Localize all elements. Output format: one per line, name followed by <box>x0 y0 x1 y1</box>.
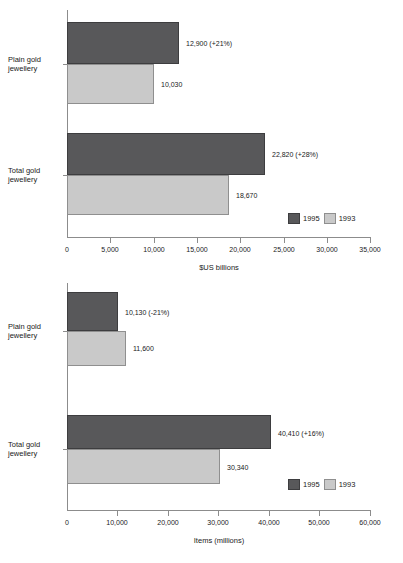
items-chart-bar-label-total-1995: 40,410 (+16%) <box>278 430 324 437</box>
items-chart-bar-total-1993 <box>67 449 220 484</box>
value-chart-tick <box>67 233 68 238</box>
items-chart-tick <box>319 511 320 516</box>
items-chart-bar-label-total-1993: 30,340 <box>227 464 248 471</box>
legend-swatch-1993-icon <box>324 479 336 490</box>
value-chart-legend-item-1995: 1995 <box>288 213 320 224</box>
value-chart-legend: 1995 1993 <box>288 213 355 224</box>
items-chart-tick <box>269 511 270 516</box>
items-chart-tick <box>117 511 118 516</box>
items-chart-plot-area: 0 10,000 20,000 30,000 40,000 50,000 60,… <box>0 283 403 563</box>
value-chart-tick <box>370 238 371 243</box>
legend-swatch-1993-icon <box>324 213 336 224</box>
value-chart-category-label-plain: Plain gold jewellery <box>8 55 64 73</box>
value-chart-bar-plain-1993 <box>67 64 154 104</box>
value-chart-bar-label-total-1995: 22,820 (+28%) <box>272 151 318 158</box>
items-chart-bar-label-plain-1993: 11,600 <box>133 345 154 352</box>
value-chart-bar-label-total-1993: 18,670 <box>236 192 257 199</box>
value-chart-plot-area: 0 5,000 10,000 15,000 20,000 25,000 30,0… <box>0 0 403 283</box>
value-chart-x-axis-title: $US billions <box>199 263 239 272</box>
legend-label-1995: 1995 <box>303 480 320 489</box>
legend-swatch-1995-icon <box>288 213 300 224</box>
items-chart-legend-item-1995: 1995 <box>288 479 320 490</box>
items-chart-tick <box>67 506 68 511</box>
value-chart-tick-label: 10,000 <box>143 246 164 253</box>
legend-swatch-1995-icon <box>288 479 300 490</box>
items-chart-tick-label: 40,000 <box>258 519 279 526</box>
value-chart-tick <box>327 238 328 243</box>
value-chart-tick-label: 25,000 <box>273 246 294 253</box>
value-chart-tick-label: 15,000 <box>186 246 207 253</box>
value-chart-bar-total-1995 <box>67 133 265 175</box>
legend-label-1993: 1993 <box>339 480 356 489</box>
value-chart-bar-total-1993 <box>67 175 229 215</box>
value-chart-tick <box>110 238 111 243</box>
items-chart-bar-total-1995 <box>67 415 271 449</box>
items-chart-bar-plain-1993 <box>67 331 126 366</box>
value-chart-tick-label: 35,000 <box>359 246 380 253</box>
items-chart-tick <box>168 511 169 516</box>
items-chart-tick-label: 0 <box>65 519 69 526</box>
items-chart-bar-label-plain-1995: 10,130 (-21%) <box>125 309 169 316</box>
items-chart: 0 10,000 20,000 30,000 40,000 50,000 60,… <box>0 283 403 563</box>
value-chart-bar-label-plain-1995: 12,900 (+21%) <box>186 40 232 47</box>
items-chart-tick <box>218 511 219 516</box>
value-chart: 0 5,000 10,000 15,000 20,000 25,000 30,0… <box>0 0 403 283</box>
value-chart-tick <box>240 238 241 243</box>
items-chart-tick <box>370 511 371 516</box>
items-chart-tick-label: 30,000 <box>207 519 228 526</box>
value-chart-legend-item-1993: 1993 <box>324 213 356 224</box>
items-chart-legend-item-1993: 1993 <box>324 479 356 490</box>
items-chart-tick-label: 50,000 <box>308 519 329 526</box>
legend-label-1995: 1995 <box>303 214 320 223</box>
items-chart-tick-label: 20,000 <box>157 519 178 526</box>
value-chart-tick <box>284 238 285 243</box>
legend-label-1993: 1993 <box>339 214 356 223</box>
items-chart-tick-label: 10,000 <box>106 519 127 526</box>
items-chart-tick-label: 60,000 <box>359 519 380 526</box>
value-chart-tick-label: 0 <box>65 246 69 253</box>
value-chart-tick <box>197 238 198 243</box>
items-chart-legend: 1995 1993 <box>288 479 355 490</box>
value-chart-category-label-total: Total gold jewellery <box>8 166 64 184</box>
items-chart-category-label-total: Total gold jewellery <box>8 440 64 458</box>
value-chart-bar-label-plain-1993: 10,030 <box>161 81 182 88</box>
value-chart-x-axis <box>67 237 371 238</box>
value-chart-tick-label: 5,000 <box>101 246 119 253</box>
items-chart-x-axis-title: Items (millions) <box>194 536 244 545</box>
items-chart-bar-plain-1995 <box>67 292 118 331</box>
items-chart-x-axis <box>67 510 371 511</box>
value-chart-tick <box>154 238 155 243</box>
items-chart-category-label-plain: Plain gold jewellery <box>8 322 64 340</box>
value-chart-tick-label: 20,000 <box>229 246 250 253</box>
value-chart-bar-plain-1995 <box>67 22 179 64</box>
value-chart-tick-label: 30,000 <box>316 246 337 253</box>
